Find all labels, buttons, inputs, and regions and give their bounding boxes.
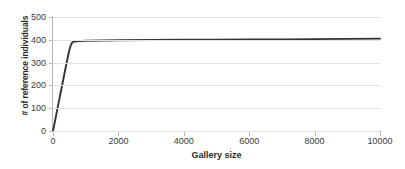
x-tickmark <box>249 132 250 136</box>
x-tickmark <box>53 132 54 136</box>
x-tickmark <box>380 132 381 136</box>
x-tick-label: 8000 <box>305 136 325 146</box>
y-tickmark <box>49 85 53 86</box>
x-tick-label: 4000 <box>174 136 194 146</box>
gridline-y <box>53 131 380 132</box>
y-tick-label: 100 <box>31 103 46 113</box>
chart-container: # of reference individuals 0100200300400… <box>0 0 405 169</box>
y-tick-label: 400 <box>31 35 46 45</box>
gridline-y <box>53 63 380 64</box>
x-tick-label: 0 <box>50 136 55 146</box>
x-tickmark <box>315 132 316 136</box>
gridline-y <box>53 17 380 18</box>
x-axis-title: Gallery size <box>53 150 380 160</box>
y-tick-label: 500 <box>31 12 46 22</box>
x-tick-label: 6000 <box>239 136 259 146</box>
y-tickmark <box>49 63 53 64</box>
y-tickmark <box>49 108 53 109</box>
x-tick-label: 10000 <box>367 136 392 146</box>
y-tickmark <box>49 40 53 41</box>
plot-area <box>53 17 380 131</box>
x-tickmark <box>184 132 185 136</box>
gridline-y <box>53 85 380 86</box>
y-tick-label: 200 <box>31 80 46 90</box>
y-tickmark <box>49 17 53 18</box>
y-tick-label: 0 <box>41 126 46 136</box>
x-axis-tick-labels: 0200040006000800010000 <box>0 136 405 150</box>
x-tickmark <box>118 132 119 136</box>
gridline-y <box>53 40 380 41</box>
series-line-reference-individuals <box>53 17 380 131</box>
y-tick-label: 300 <box>31 58 46 68</box>
gridline-y <box>53 108 380 109</box>
x-tick-label: 2000 <box>108 136 128 146</box>
